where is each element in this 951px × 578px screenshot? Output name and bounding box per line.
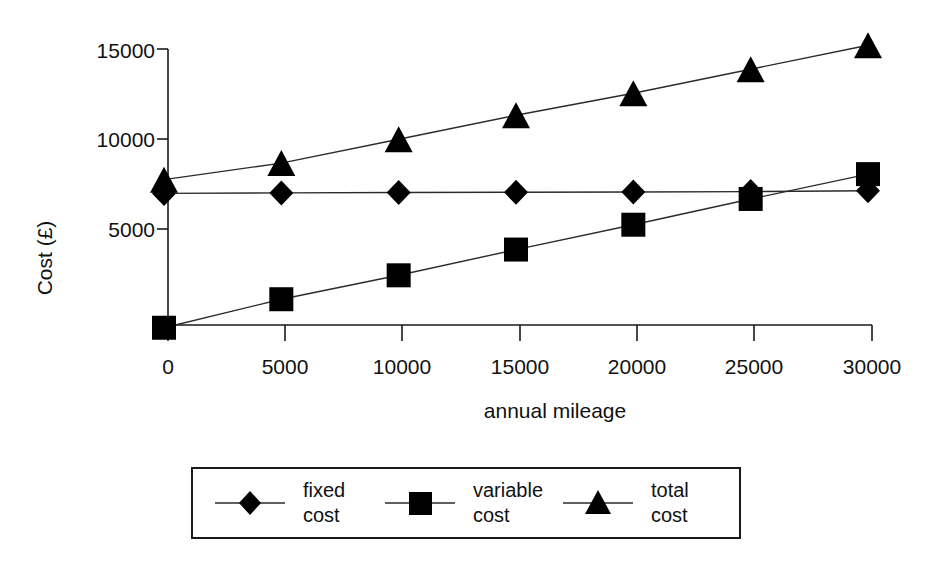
diamond-icon <box>239 491 261 515</box>
data-point-triangle <box>385 126 413 152</box>
x-axis-title: annual mileage <box>484 399 626 422</box>
data-point-diamond <box>621 179 645 204</box>
legend-label-total-cost-line1: total <box>651 479 689 501</box>
data-point-square <box>269 287 293 311</box>
square-icon <box>409 492 432 515</box>
series-total-cost <box>150 32 882 192</box>
data-point-triangle <box>619 80 647 106</box>
x-tick-label-30000: 30000 <box>843 355 901 378</box>
series-layer <box>150 32 882 339</box>
data-point-diamond <box>387 180 411 205</box>
y-tick-label-10000: 10000 <box>97 128 155 151</box>
data-point-square <box>856 162 880 186</box>
data-point-triangle <box>502 102 530 128</box>
y-axis-title: Cost (£) <box>33 221 56 296</box>
data-point-triangle <box>267 150 295 176</box>
data-point-diamond <box>504 180 528 205</box>
legend-label-variable-cost-line1: variable <box>473 479 543 501</box>
legend-entry-fixed-cost[interactable]: fixed cost <box>215 479 345 526</box>
data-point-square <box>152 316 176 340</box>
legend-label-variable-cost-line2: cost <box>473 504 510 526</box>
data-point-square <box>739 187 763 211</box>
data-point-square <box>621 213 645 237</box>
x-tick-label-5000: 5000 <box>262 355 309 378</box>
legend-entry-variable-cost[interactable]: variable cost <box>385 479 543 526</box>
data-point-triangle <box>854 32 882 58</box>
legend-label-fixed-cost-line1: fixed <box>303 479 345 501</box>
x-tick-label-0: 0 <box>162 355 174 378</box>
legend-entry-total-cost[interactable]: total cost <box>563 479 689 526</box>
legend-label-fixed-cost-line2: cost <box>303 504 340 526</box>
cost-vs-mileage-chart: Cost (£) 15000 10000 5000 0 0 5000 10000… <box>0 0 951 578</box>
data-point-diamond <box>269 180 293 205</box>
data-point-square <box>504 238 528 262</box>
y-tick-label-15000: 15000 <box>97 39 155 62</box>
series-fixed-cost <box>152 178 880 206</box>
triangle-icon <box>585 490 611 514</box>
data-point-triangle <box>150 167 178 193</box>
legend-label-total-cost-line2: cost <box>651 504 688 526</box>
x-tick-label-25000: 25000 <box>725 355 783 378</box>
x-tick-label-10000: 10000 <box>373 355 431 378</box>
x-tick-label-15000: 15000 <box>491 355 549 378</box>
x-tick-label-20000: 20000 <box>608 355 666 378</box>
chart-canvas: Cost (£) 15000 10000 5000 0 0 5000 10000… <box>0 0 951 578</box>
y-tick-label-5000: 5000 <box>108 218 155 241</box>
data-point-triangle <box>737 56 765 82</box>
data-point-square <box>387 263 411 287</box>
